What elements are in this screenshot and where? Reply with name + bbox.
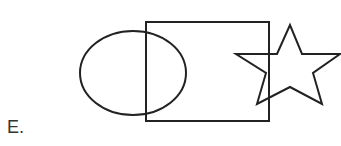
option-label: E. [7, 118, 24, 136]
ellipse-shape [80, 31, 186, 115]
star-shape [236, 25, 340, 104]
figure-canvas [0, 0, 341, 146]
shapes-diagram [0, 0, 341, 146]
